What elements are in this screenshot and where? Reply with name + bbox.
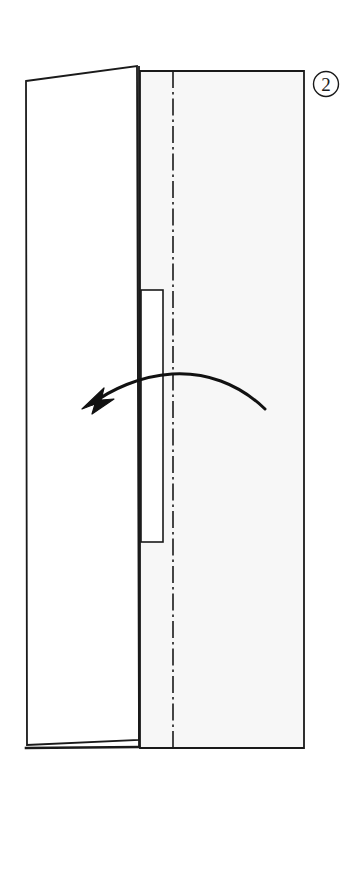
figure-root: 2 [0, 0, 347, 877]
left-flap [26, 66, 139, 745]
flap-bottom-shadow-line [26, 747, 139, 748]
folding-instruction-figure: 2 [0, 0, 347, 877]
main-panel [140, 71, 304, 748]
step-number-label: 2 [321, 74, 331, 95]
inner-tab-rectangle [141, 290, 163, 542]
